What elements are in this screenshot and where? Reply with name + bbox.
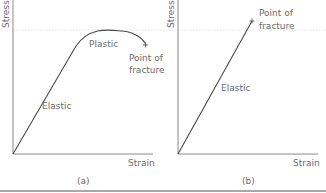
x-axis-label-b: Strain (293, 158, 320, 168)
fracture-label-a-line1: Point of (129, 53, 164, 63)
stress-strain-diagram: Stress Strain Plastic Elastic Point of f… (0, 0, 326, 193)
region-label-elastic-b: Elastic (221, 83, 250, 93)
fracture-label-a-line2: fracture (129, 65, 165, 75)
x-axis-label-a: Strain (128, 158, 155, 168)
fracture-label-b-line1: Point of (259, 8, 294, 18)
fracture-marker-b (250, 19, 255, 24)
y-axis-label-a: Stress (1, 0, 11, 28)
region-label-plastic: Plastic (89, 39, 118, 49)
y-axis-label-b: Stress (166, 0, 176, 28)
panel-caption-b: (b) (242, 176, 255, 186)
stress-strain-curve-a (13, 30, 146, 154)
region-label-elastic-a: Elastic (42, 101, 71, 111)
panel-caption-a: (a) (77, 176, 90, 186)
panel-b: Stress Strain Elastic Point of fracture … (166, 0, 320, 186)
fracture-label-b-line2: fracture (259, 21, 295, 31)
panel-a: Stress Strain Plastic Elastic Point of f… (1, 0, 165, 186)
bottom-border (0, 190, 326, 192)
fracture-marker-a (143, 43, 148, 48)
